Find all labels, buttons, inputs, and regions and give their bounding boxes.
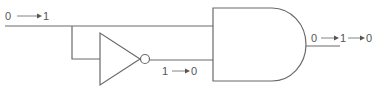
output-from: 0 xyxy=(311,32,317,44)
inverter-transition-label: 1 0 xyxy=(162,65,197,77)
inverter-to: 0 xyxy=(191,65,197,77)
arrow-icon xyxy=(334,36,339,41)
circuit-diagram: 0 1 1 0 0 1 0 xyxy=(0,0,388,90)
arrow-icon xyxy=(37,14,42,19)
input-to: 1 xyxy=(43,10,49,22)
input-transition-label: 0 1 xyxy=(5,10,49,22)
arrow-icon xyxy=(360,36,365,41)
inverter-from: 1 xyxy=(162,65,168,77)
output-mid: 1 xyxy=(340,32,346,44)
output-to: 0 xyxy=(366,32,372,44)
output-transition-label: 0 1 0 xyxy=(311,32,372,44)
inverter-bubble xyxy=(141,55,150,64)
and-gate xyxy=(213,8,306,81)
branch-wire xyxy=(72,26,100,59)
arrow-icon xyxy=(185,69,190,74)
inverter-triangle xyxy=(100,33,140,85)
input-from: 0 xyxy=(5,10,11,22)
